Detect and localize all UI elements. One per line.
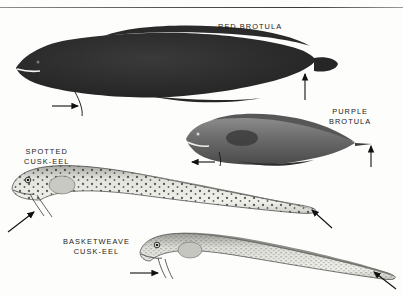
red-brotula-eye <box>37 61 40 64</box>
basketweave-cusk-eel-weave-pattern <box>140 233 395 279</box>
spotted-cusk-eel-barbel-arrow <box>8 212 34 232</box>
specimen-red-brotula <box>16 25 338 116</box>
basketweave-cusk-eel-pupil <box>156 244 159 247</box>
spotted-cusk-eel-pupil <box>27 179 30 182</box>
specimen-spotted-cusk-eel <box>8 166 332 232</box>
spotted-cusk-eel-barbel-b <box>37 195 52 217</box>
illustration-plate: RED BROTULA PURPLE BROTULA SPOTTED CUSK-… <box>0 0 403 297</box>
purple-brotula-pectoral-fin <box>226 130 258 146</box>
purple-brotula-eye <box>197 133 200 136</box>
basketweave-cusk-eel-pectoral-fin <box>178 242 202 258</box>
red-brotula-body <box>16 33 316 98</box>
label-spotted-cusk-eel: SPOTTED CUSK-EEL <box>24 147 69 166</box>
basketweave-cusk-eel-barbel-a <box>158 258 166 278</box>
red-brotula-caudal-fin <box>314 57 338 71</box>
specimen-basketweave-cusk-eel <box>130 233 396 289</box>
spotted-cusk-eel-pectoral-fin <box>49 176 75 194</box>
basketweave-cusk-eel-barbel-b <box>165 259 173 279</box>
label-basketweave-cusk-eel: BASKETWEAVE CUSK-EEL <box>63 237 130 256</box>
purple-brotula-caudal-tip <box>355 143 372 146</box>
label-purple-brotula: PURPLE BROTULA <box>329 107 371 126</box>
label-red-brotula: RED BROTULA <box>218 22 282 32</box>
red-brotula-pelvic-filament <box>75 92 82 116</box>
spotted-cusk-eel-tail-arrow <box>312 210 332 228</box>
